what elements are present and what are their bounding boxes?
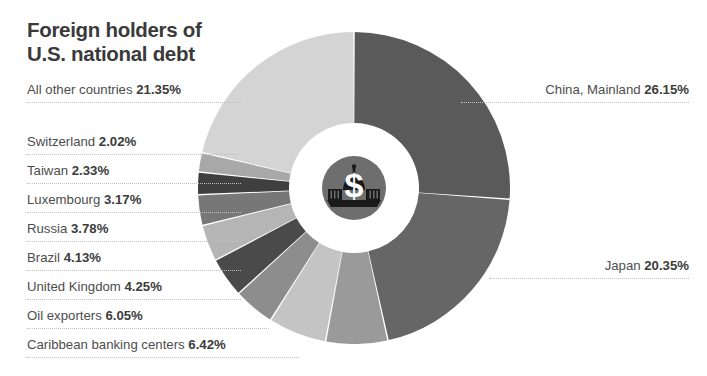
label-united-kingdom: United Kingdom 4.25% [27,279,241,300]
label-value: 3.17% [104,192,141,207]
label-japan: Japan 20.35% [489,258,689,279]
label-value: 4.13% [64,250,101,265]
label-value: 6.42% [188,337,225,352]
label-russia: Russia 3.78% [27,221,241,242]
label-name: Taiwan [27,163,68,178]
label-luxembourg: Luxembourg 3.17% [27,192,241,213]
label-caribbean-banking-centers: Caribbean banking centers 6.42% [27,337,299,358]
label-name: Switzerland [27,134,95,149]
label-value: 3.78% [71,221,108,236]
label-name: Caribbean banking centers [27,337,185,352]
chart-page: Foreign holders of U.S. national debt Ch… [0,0,707,376]
label-all-other-countries: All other countries 21.35% [27,82,241,103]
label-name: China, Mainland [545,82,640,97]
label-value: 2.02% [99,134,136,149]
label-value: 21.35% [136,82,181,97]
label-switzerland: Switzerland 2.02% [27,134,241,155]
label-name: Brazil [27,250,60,265]
dollar-sign-glyph: $ [345,166,364,204]
label-value: 4.25% [125,279,162,294]
label-oil-exporters: Oil exporters 6.05% [27,308,269,329]
label-name: Luxembourg [27,192,100,207]
label-name: Japan [605,258,641,273]
donut-svg: China, Mainland 26.15%Japan 20.35%Caribb… [198,32,510,344]
label-brazil: Brazil 4.13% [27,250,241,271]
label-name: Russia [27,221,67,236]
donut-chart: China, Mainland 26.15%Japan 20.35%Caribb… [198,32,510,344]
label-china-mainland: China, Mainland 26.15% [461,82,689,103]
label-value: 6.05% [105,308,142,323]
label-taiwan: Taiwan 2.33% [27,163,241,184]
label-value: 2.33% [72,163,109,178]
label-value: 26.15% [644,82,689,97]
label-name: All other countries [27,82,133,97]
label-name: United Kingdom [27,279,121,294]
capitol-dollar-icon: $ [322,156,386,220]
label-value: 20.35% [644,258,689,273]
label-name: Oil exporters [27,308,102,323]
